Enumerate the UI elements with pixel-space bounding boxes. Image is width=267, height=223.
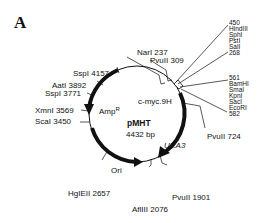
ura3-label: URA3 [164, 141, 186, 150]
site-sspi-3771: SspI 3771 [45, 89, 82, 98]
ori-arrowhead [134, 157, 143, 167]
plasmid-map: A Nar [0, 0, 267, 223]
site-scai-3450: ScaI 3450 [35, 117, 72, 126]
mcs-lower-stack: 561 BamHI SmaI KpnI SacI EcoRI 582 [229, 74, 249, 117]
site-pvuii-1901: PvuII 1901 [172, 193, 211, 202]
site-afliii-2076: AflIII 2076 [132, 205, 169, 214]
plasmid-size: 4432 bp [126, 130, 155, 139]
cmyc-label: c-myc.9H [138, 97, 172, 106]
site-xmni-3569: XmnI 3569 [35, 106, 74, 115]
panel-label: A [14, 13, 27, 32]
site-pvuii-724: PvuII 724 [207, 132, 241, 141]
site-sspi-4157: SspI 4157 [73, 69, 110, 78]
mcs-upper-end: 268 [229, 49, 240, 56]
site-pvuii-309: PvuII 309 [150, 56, 184, 65]
site-aati-3892: AatI 3892 [52, 81, 87, 90]
ampr-arrowhead [84, 104, 94, 115]
ampr-label: AmpR [99, 106, 120, 116]
mcs-upper-stack: 450 HindIII SphI PstI SalI 268 [229, 19, 248, 56]
mcs-lower-end: 582 [229, 110, 240, 117]
site-hgieii-2657: HgIEII 2657 [68, 189, 111, 198]
plasmid-name: pMHT [127, 118, 151, 128]
ori-label: Ori [111, 166, 122, 175]
